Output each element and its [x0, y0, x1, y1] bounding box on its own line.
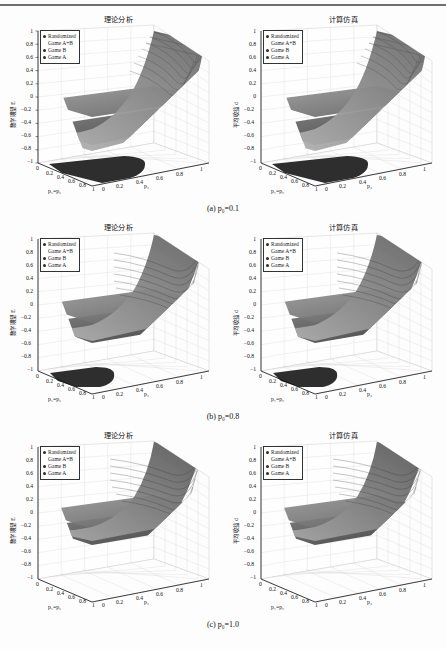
z-tick: 0.6: [239, 262, 256, 268]
legend-item-game-a: Game A: [43, 470, 76, 477]
x-axis-label-left: p₁=p₂: [48, 188, 61, 194]
z-tick: −1: [16, 366, 33, 372]
x-tick: 0.4: [280, 174, 287, 180]
x-tick: 0.6: [291, 594, 298, 600]
z-tick: −0.6: [14, 132, 31, 138]
legend-label-randomized-1: Randomized: [271, 241, 299, 247]
subplot-a-right: 计算仿真: [227, 14, 442, 196]
figure-panel-b: 理论分析: [0, 222, 446, 428]
subfigure-caption-b: (b) p₀=0.8: [0, 412, 446, 421]
z-tick: −0.8: [237, 145, 254, 151]
legend-label-game-a: Game A: [48, 470, 66, 477]
legend-label-randomized-2: Game A+B: [271, 456, 299, 463]
plot-area-a-right: 平均收益 d 1 0.8 0.6 0.4 0.2 0 −0.2 −0.4 −0.…: [227, 23, 442, 196]
legend-marker-icon: [43, 56, 46, 59]
y-tick: 0: [325, 394, 328, 400]
y-tick: 0.8: [176, 379, 183, 385]
z-tick: −0.4: [14, 119, 31, 125]
legend-marker-icon: [266, 472, 269, 475]
x-tick: 0.6: [68, 386, 75, 392]
z-tick: 0.4: [239, 483, 256, 489]
legend-label-randomized-1: Randomized: [271, 449, 299, 455]
z-tick: 1: [239, 236, 256, 242]
legend-item-randomized: Randomized Game A+B: [266, 241, 299, 255]
z-tick: −0.6: [14, 548, 31, 554]
legend-marker-icon: [266, 35, 269, 38]
z-tick: −1: [239, 366, 256, 372]
plot-area-b-left: 数学期望 E 1 0.8 0.6 0.4 0.2 0 −0.2 −0.4 −0.…: [4, 231, 219, 404]
x-axis-label-right: p₁=p₂: [271, 188, 284, 194]
legend-item-game-a: Game A: [43, 54, 76, 61]
z-tick: −0.4: [237, 327, 254, 333]
x-tick: 1: [92, 602, 95, 608]
x-tick: 0.6: [68, 594, 75, 600]
z-tick: −0.8: [14, 353, 31, 359]
x-tick: 0.8: [302, 598, 309, 604]
y-tick: 0.8: [399, 379, 406, 385]
z-tick: 0.6: [16, 54, 33, 60]
z-tick: 0.2: [16, 80, 33, 86]
x-tick: 0.6: [291, 386, 298, 392]
y-tick: 0.6: [156, 383, 163, 389]
z-tick: −0.2: [14, 314, 31, 320]
legend-label-game-b: Game B: [271, 47, 289, 54]
legend-label-randomized-2: Game A+B: [48, 456, 76, 463]
legend-b-right: Randomized Game A+B Game B Game A: [263, 238, 303, 272]
y-tick: 0: [325, 186, 328, 192]
y-axis-label-left: p₃: [144, 391, 149, 397]
legend-item-randomized: Randomized Game A+B: [43, 241, 76, 255]
subfigure-caption-a: (a) p₀=0.1: [0, 204, 446, 213]
z-tick: 0: [16, 301, 33, 307]
z-tick: 0.4: [16, 275, 33, 281]
legend-label-game-b: Game B: [271, 463, 289, 470]
y-tick: 1: [200, 374, 203, 380]
legend-marker-icon: [266, 243, 269, 246]
legend-label-randomized-1: Randomized: [271, 33, 299, 39]
y-tick: 0.6: [379, 175, 386, 181]
legend-label-randomized-2: Game A+B: [48, 248, 76, 255]
legend-label-game-b: Game B: [48, 47, 66, 54]
y-tick: 0: [102, 602, 105, 608]
legend-a-right: Randomized Game A+B Game B Game A: [263, 30, 303, 64]
z-tick: −0.4: [237, 535, 254, 541]
subplot-c-right: 计算仿真: [227, 430, 442, 612]
z-tick: −0.6: [237, 132, 254, 138]
legend-item-randomized: Randomized Game A+B: [43, 33, 76, 47]
z-tick: −0.2: [14, 106, 31, 112]
z-tick: 1: [239, 28, 256, 34]
subplot-b-left: 理论分析: [4, 222, 219, 404]
subplot-b-right: 计算仿真: [227, 222, 442, 404]
y-tick: 1: [423, 166, 426, 172]
legend-marker-icon: [43, 49, 46, 52]
legend-item-randomized: Randomized Game A+B: [266, 449, 299, 463]
legend-label-randomized-1: Randomized: [48, 449, 76, 455]
z-tick: 0.6: [239, 470, 256, 476]
legend-item-game-a: Game A: [266, 54, 299, 61]
z-tick: −0.8: [14, 145, 31, 151]
z-tick: −1: [16, 574, 33, 580]
legend-item-game-b: Game B: [43, 255, 76, 262]
legend-marker-icon: [266, 257, 269, 260]
z-tick: 0.6: [239, 54, 256, 60]
x-tick: 0.8: [302, 390, 309, 396]
y-tick: 0.8: [176, 587, 183, 593]
z-tick: −0.6: [14, 340, 31, 346]
z-tick: −0.6: [237, 548, 254, 554]
subplot-c-left: 理论分析: [4, 430, 219, 612]
x-tick: 0.4: [57, 590, 64, 596]
z-tick: −0.2: [237, 314, 254, 320]
z-tick: 0.8: [16, 457, 33, 463]
x-tick: 0.8: [79, 598, 86, 604]
z-tick: 0.8: [239, 41, 256, 47]
x-tick: 0.4: [57, 174, 64, 180]
legend-marker-icon: [43, 451, 46, 454]
legend-item-randomized: Randomized Game A+B: [266, 33, 299, 47]
z-tick: 0.4: [239, 275, 256, 281]
y-tick: 0.6: [156, 175, 163, 181]
legend-marker-icon: [43, 465, 46, 468]
y-tick: 0.4: [136, 387, 143, 393]
legend-item-game-b: Game B: [266, 47, 299, 54]
y-axis-label-right2: p₃: [367, 599, 372, 605]
z-tick: 0.2: [239, 80, 256, 86]
x-axis-label-right: p₁=p₂: [271, 604, 284, 610]
